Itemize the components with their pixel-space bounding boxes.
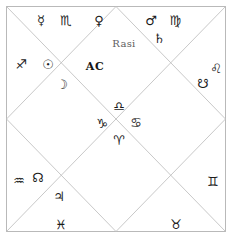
scorpio-glyph: ♏ [60,14,72,27]
aries-glyph: ♈ [113,134,125,147]
rahu-glyph: ☊ [32,171,44,184]
moon-glyph: ☽ [56,78,68,91]
chart-title: Rasi [112,39,135,49]
venus-glyph: ♀ [94,14,104,27]
ascendant-label: AC [86,61,104,72]
taurus-glyph: ♉ [170,218,182,231]
sagittarius-glyph: ♐ [15,58,27,71]
saturn-glyph: ♄ [153,32,165,45]
capricorn-glyph: ♑ [96,117,108,130]
mars-glyph: ♂ [145,14,157,27]
libra-glyph: ♎ [113,100,125,113]
ketu-glyph: ☋ [197,77,209,90]
cancer-glyph: ♋ [130,116,142,129]
jupiter-glyph: ♃ [53,190,65,203]
aquarius-glyph: ♒ [13,174,25,187]
pisces-glyph: ♓ [55,218,67,231]
mercury-glyph: ☿ [37,14,45,27]
virgo-glyph: ♍ [169,14,181,27]
leo-glyph: ♌ [210,62,222,75]
sun-glyph: ☉ [42,58,54,71]
glyph-layer: ☿♏♀♂♍♄Rasi♐☉AC☽♌☋♎♑♋♈♒☊♃♊♓♉ [0,0,232,247]
gemini-glyph: ♊ [207,175,219,188]
rasi-chart: ☿♏♀♂♍♄Rasi♐☉AC☽♌☋♎♑♋♈♒☊♃♊♓♉ [0,0,232,247]
